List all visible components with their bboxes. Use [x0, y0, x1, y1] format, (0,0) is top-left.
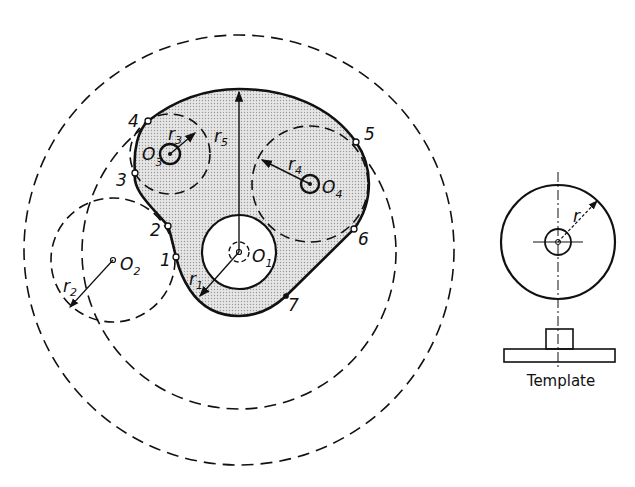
cam-diagram: 1 2 3 4 5 6 7 O1 O2 O3 O4 r1 r2 r3 r4 r5…	[0, 0, 635, 487]
template-caption: Template	[526, 372, 595, 390]
point-label-2: 2	[150, 220, 161, 240]
template-drawing: r Template	[501, 172, 615, 390]
point-label-7: 7	[288, 295, 299, 315]
r2-label: r2	[63, 276, 77, 299]
template-radius-label: r	[573, 206, 581, 226]
o2-label: O2	[120, 254, 140, 278]
point-label-3: 3	[116, 170, 127, 190]
point-label-4: 4	[128, 111, 139, 131]
point-label-1: 1	[160, 250, 171, 270]
template-boss	[546, 329, 573, 349]
r2-arrow	[70, 260, 113, 307]
point-label-5: 5	[364, 124, 375, 144]
template-base	[504, 349, 615, 362]
point-label-6: 6	[358, 229, 369, 249]
